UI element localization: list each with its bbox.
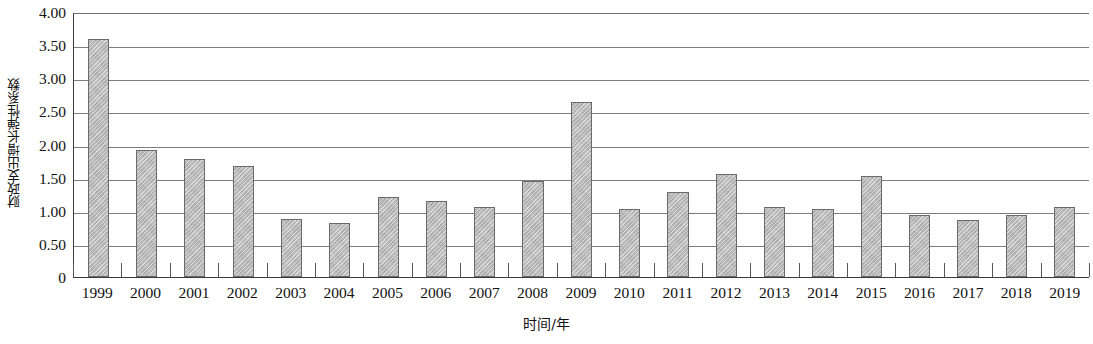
bar[interactable] xyxy=(861,176,882,277)
x-axis-tick-label: 1999 xyxy=(73,284,121,308)
y-axis-tick-label: 2.50 xyxy=(39,103,66,121)
x-axis-tick-label: 2011 xyxy=(654,284,702,308)
bar-slot xyxy=(896,14,944,277)
bar-slot xyxy=(654,14,702,277)
x-axis-tick-label: 2012 xyxy=(702,284,750,308)
y-axis-tick-labels: 4.003.503.002.502.001.501.000.500 xyxy=(24,0,70,286)
x-axis-tick-label: 2007 xyxy=(460,284,508,308)
x-axis-tick-label: 2015 xyxy=(847,284,895,308)
y-axis-tick-label: 1.00 xyxy=(39,203,66,221)
y-axis-tick-label: 4.00 xyxy=(39,4,66,22)
bar[interactable] xyxy=(474,207,495,277)
y-axis-tick-label: 3.50 xyxy=(39,37,66,55)
bars-layer xyxy=(74,14,1089,277)
bar[interactable] xyxy=(378,197,399,277)
y-axis-tick-label: 3.00 xyxy=(39,70,66,88)
x-axis-tick-label: 2004 xyxy=(315,284,363,308)
bar-slot xyxy=(751,14,799,277)
bar-slot xyxy=(364,14,412,277)
x-axis-tick-label: 2005 xyxy=(363,284,411,308)
x-axis-title-text: 时间/年 xyxy=(523,316,570,332)
x-axis-tick-label: 2016 xyxy=(895,284,943,308)
bar-slot xyxy=(847,14,895,277)
y-axis-tick-label: 0 xyxy=(58,269,66,287)
bar-slot xyxy=(944,14,992,277)
bar-slot xyxy=(461,14,509,277)
y-axis-title: 财政支出增长弹性系数 xyxy=(0,0,26,286)
bar-slot xyxy=(557,14,605,277)
bar-slot xyxy=(122,14,170,277)
bar-slot xyxy=(992,14,1040,277)
bar[interactable] xyxy=(184,159,205,277)
bar[interactable] xyxy=(88,39,109,277)
bar[interactable] xyxy=(522,181,543,277)
y-axis-tick-label: 1.50 xyxy=(39,170,66,188)
bar-chart-figure: 财政支出增长弹性系数 4.003.503.002.502.001.501.000… xyxy=(0,0,1093,344)
bar[interactable] xyxy=(957,220,978,277)
bar[interactable] xyxy=(233,166,254,277)
bar[interactable] xyxy=(136,150,157,277)
bar[interactable] xyxy=(329,223,350,277)
y-axis-title-text: 财政支出增长弹性系数 xyxy=(7,78,20,208)
x-axis-tick-label: 2003 xyxy=(267,284,315,308)
x-axis-tick-label: 2014 xyxy=(799,284,847,308)
bar-slot xyxy=(74,14,122,277)
x-axis-title: 时间/年 xyxy=(0,313,1093,333)
x-axis-tick-label: 2002 xyxy=(218,284,266,308)
x-axis-tick-label: 2006 xyxy=(412,284,460,308)
x-axis-tick-label: 2018 xyxy=(992,284,1040,308)
x-axis-tick-labels: 1999200020012002200320042005200620072008… xyxy=(73,284,1089,308)
bar[interactable] xyxy=(667,192,688,277)
bar-slot xyxy=(799,14,847,277)
bar[interactable] xyxy=(812,209,833,277)
bar[interactable] xyxy=(716,174,737,277)
y-axis-tick-label: 0.50 xyxy=(39,236,66,254)
bar[interactable] xyxy=(426,201,447,277)
bar[interactable] xyxy=(764,207,785,277)
x-axis-tick-label: 2017 xyxy=(944,284,992,308)
bar-slot xyxy=(1041,14,1089,277)
x-axis-tick-label: 2013 xyxy=(750,284,798,308)
x-axis-minor-tick xyxy=(1089,263,1090,277)
x-axis-tick-label: 2000 xyxy=(121,284,169,308)
x-axis-tick-label: 2019 xyxy=(1041,284,1089,308)
bar-slot xyxy=(509,14,557,277)
bar[interactable] xyxy=(619,209,640,277)
bar-slot xyxy=(412,14,460,277)
bar[interactable] xyxy=(571,102,592,277)
bar-slot xyxy=(702,14,750,277)
bar[interactable] xyxy=(1054,207,1075,277)
plot-area xyxy=(73,13,1089,278)
x-axis-tick-label: 2001 xyxy=(170,284,218,308)
x-axis-tick-label: 2010 xyxy=(605,284,653,308)
x-axis-tick-label: 2008 xyxy=(508,284,556,308)
bar[interactable] xyxy=(1006,215,1027,277)
bar-slot xyxy=(316,14,364,277)
y-axis-tick-label: 2.00 xyxy=(39,137,66,155)
bar-slot xyxy=(606,14,654,277)
bar[interactable] xyxy=(281,219,302,277)
bar-slot xyxy=(171,14,219,277)
x-axis-tick-label: 2009 xyxy=(557,284,605,308)
bar-slot xyxy=(267,14,315,277)
bar[interactable] xyxy=(909,215,930,277)
bar-slot xyxy=(219,14,267,277)
